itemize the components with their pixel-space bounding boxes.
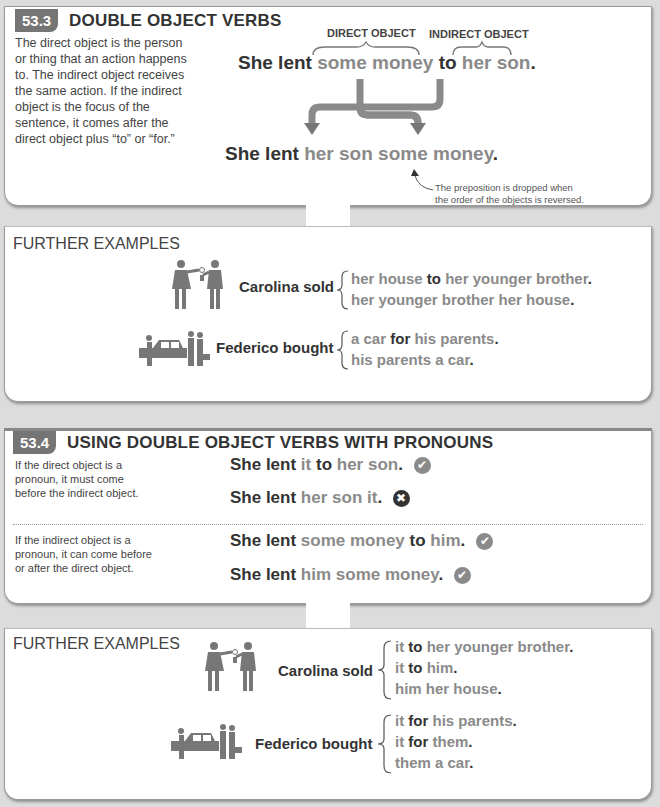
cross-icon: ✖ [393, 490, 410, 507]
example-option: her younger brother her house. [351, 291, 574, 308]
further-examples-title: FURTHER EXAMPLES [13, 635, 180, 653]
section-53-4-panel: 53.4 USING DOUBLE OBJECT VERBS WITH PRON… [4, 428, 652, 604]
further-examples-panel-1: FURTHER EXAMPLES Carolina sold her house… [4, 226, 652, 402]
example-option: him her house. [395, 680, 502, 697]
section-description: The direct object is the person or thing… [15, 35, 210, 147]
brace-icon [336, 269, 350, 311]
example-option: his parents a car. [351, 351, 474, 368]
example-sentence-original: She lent some money to her son. [238, 52, 536, 74]
section-number-badge: 53.4 [13, 431, 56, 454]
people-with-car-icon [171, 723, 243, 761]
section-title: DOUBLE OBJECT VERBS [69, 11, 282, 31]
people-handing-keys-icon [169, 259, 229, 315]
brace-icon [377, 713, 393, 775]
check-icon: ✔ [414, 457, 431, 474]
indirect-object-label: INDIRECT OBJECT [429, 28, 529, 40]
example-subject: Federico bought [255, 735, 373, 752]
preposition-note: The preposition is dropped when the orde… [435, 182, 584, 206]
example-option: her house to her younger brother. [351, 270, 592, 287]
further-examples-panel-2: FURTHER EXAMPLES Carolina sold it to her… [4, 628, 652, 800]
further-examples-title: FURTHER EXAMPLES [13, 235, 180, 253]
example-option: it for his parents. [395, 712, 517, 729]
example-option: a car for his parents. [351, 330, 499, 347]
panel-connector [306, 200, 350, 228]
people-handing-keys-icon [202, 641, 262, 697]
example-sentence-reversed: She lent her son some money. [225, 143, 498, 165]
section-number-badge: 53.3 [15, 9, 58, 32]
people-with-car-icon [139, 330, 211, 368]
example-option: it to him. [395, 659, 458, 676]
example-option: them a car. [395, 754, 473, 771]
example-subject: Carolina sold [278, 662, 373, 679]
rule-divider [13, 524, 643, 525]
brace-icon [377, 639, 393, 701]
section-title: USING DOUBLE OBJECT VERBS WITH PRONOUNS [67, 433, 493, 453]
rule-description: If the direct object is a pronoun, it mu… [15, 458, 139, 500]
rule-example-sentence: She lent her son it. ✖ [230, 488, 410, 508]
rule-example-sentence: She lent some money to him. ✔ [230, 531, 493, 551]
example-subject: Federico bought [216, 339, 334, 356]
section-53-3-panel: 53.3 DOUBLE OBJECT VERBS The direct obje… [4, 6, 652, 206]
example-option: it to her younger brother. [395, 638, 573, 655]
rule-example-sentence: She lent him some money. ✔ [230, 565, 471, 585]
check-icon: ✔ [454, 567, 471, 584]
check-icon: ✔ [476, 533, 493, 550]
example-option: it for them. [395, 733, 473, 750]
direct-object-label: DIRECT OBJECT [327, 27, 416, 39]
rule-example-sentence: She lent it to her son. ✔ [230, 455, 431, 475]
rule-description: If the indirect object is a pronoun, it … [15, 533, 152, 575]
brace-icon [336, 329, 350, 371]
panel-connector [306, 598, 350, 630]
example-subject: Carolina sold [239, 278, 334, 295]
